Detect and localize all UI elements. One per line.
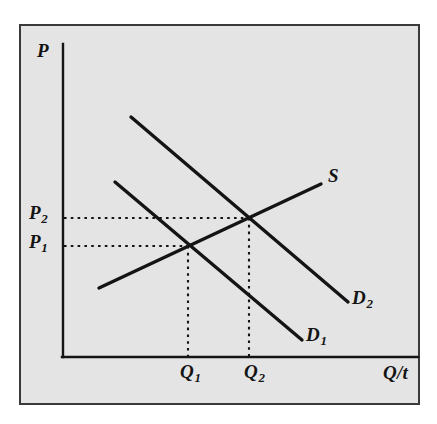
curve-label-subscript-D1: 1 (320, 333, 327, 348)
curve-label-D2: D2 (352, 288, 373, 307)
price-tick-label-P1: P1 (29, 232, 48, 251)
quantity-tick-label-Q1: Q1 (180, 362, 201, 381)
quantity-tick-subscript-Q1: 1 (194, 370, 201, 385)
quantity-tick-label-Q2: Q2 (244, 362, 265, 381)
price-tick-subscript-P1: 1 (41, 240, 48, 255)
price-tick-base-P2: P (29, 202, 41, 223)
curve-label-base-D1: D (306, 324, 320, 345)
chart-panel-frame (19, 24, 420, 405)
curve-label-S: S (328, 166, 339, 185)
y-axis-label: P (37, 41, 49, 60)
curve-label-base-S: S (328, 165, 339, 186)
price-tick-subscript-P2: 2 (41, 211, 48, 226)
quantity-tick-base-Q1: Q (180, 361, 194, 382)
curve-label-base-D2: D (352, 287, 366, 308)
quantity-tick-subscript-Q2: 2 (258, 370, 265, 385)
x-axis-label: Q/t (383, 363, 408, 382)
quantity-tick-base-Q2: Q (244, 361, 258, 382)
curve-label-subscript-D2: 2 (366, 296, 373, 311)
figure-root: P Q/t P2 P1 Q1 Q2 S D1 D2 (0, 0, 437, 424)
price-tick-label-P2: P2 (29, 203, 48, 222)
price-tick-base-P1: P (29, 231, 41, 252)
curve-label-D1: D1 (306, 325, 327, 344)
